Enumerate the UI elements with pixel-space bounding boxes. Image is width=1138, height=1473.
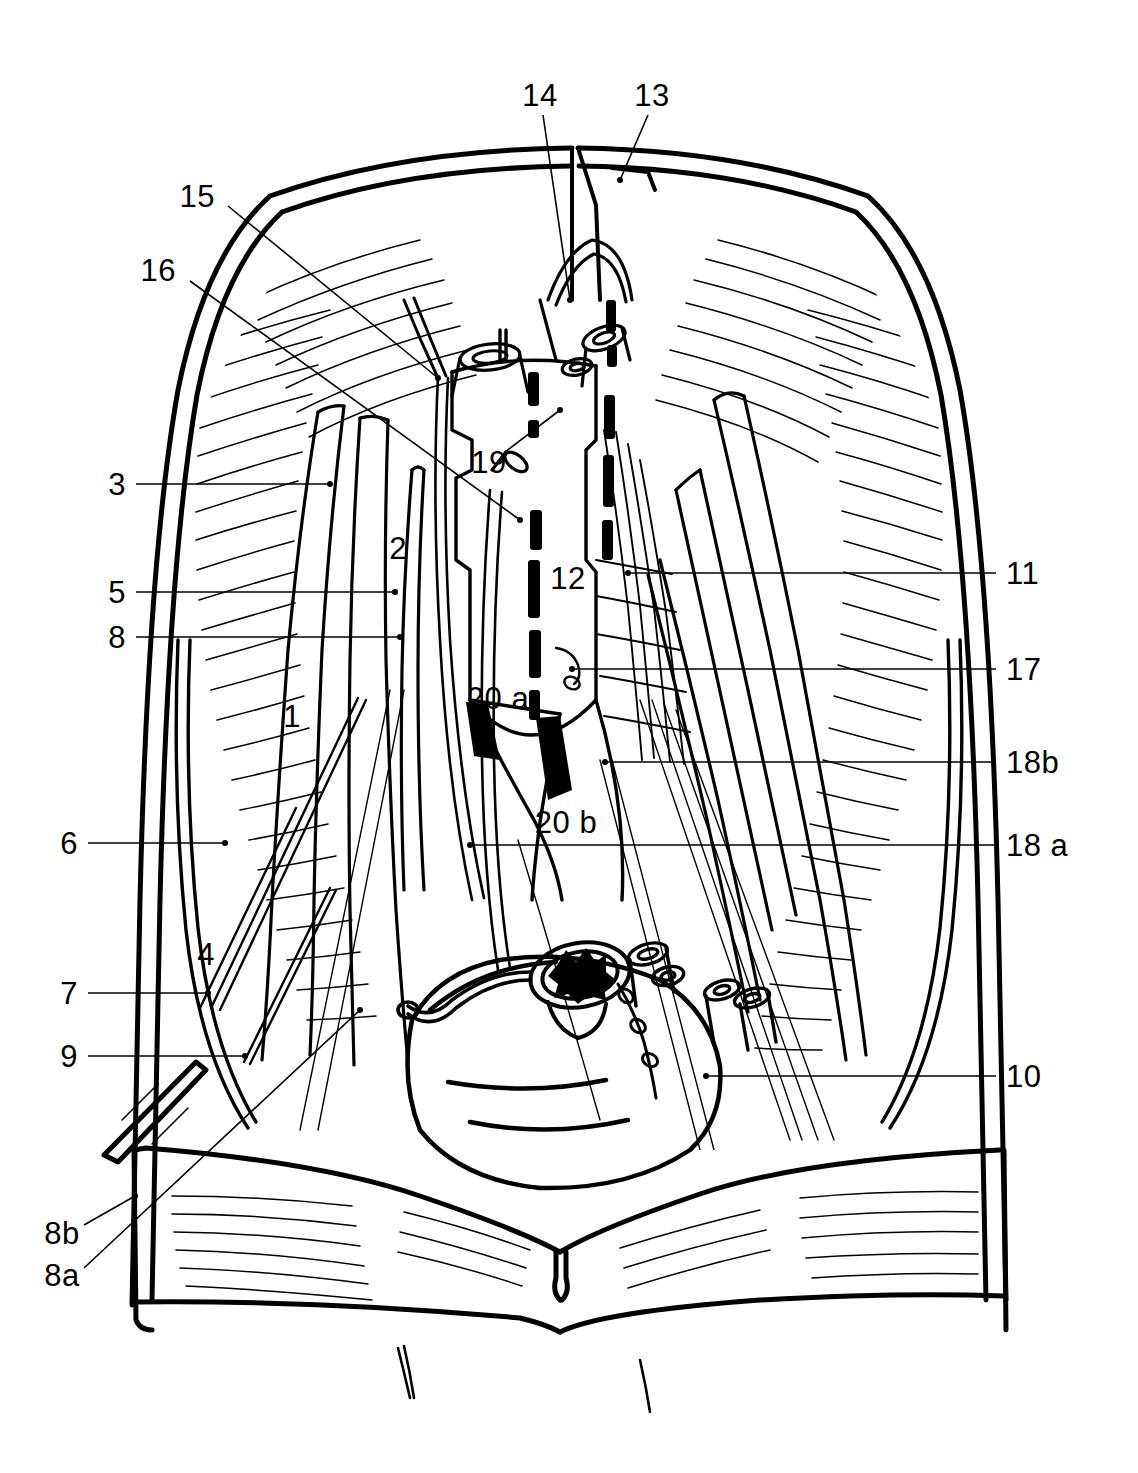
- label-8b: 8b: [44, 1218, 79, 1249]
- left-fascia-hatching: [196, 240, 476, 1020]
- leader-dot-8: [397, 634, 403, 640]
- leader-dot-13: [617, 177, 623, 183]
- label-9: 9: [60, 1041, 78, 1072]
- leader-dot-18-a: [467, 842, 473, 848]
- leader-dot-9: [242, 1053, 248, 1059]
- leader-line-14: [543, 115, 570, 300]
- leader-dot-6: [222, 840, 228, 846]
- label-8a: 8a: [44, 1260, 79, 1291]
- left-muscle-bellies: [262, 406, 424, 1065]
- label-1: 1: [283, 701, 301, 732]
- leader-dot-3: [327, 481, 333, 487]
- leader-dot-8a: [357, 1007, 363, 1013]
- leader-line-19: [505, 410, 560, 452]
- label-18-a: 18 a: [1006, 830, 1068, 861]
- label-16: 16: [141, 255, 176, 286]
- leader-dot-17: [569, 666, 575, 672]
- label-5: 5: [108, 577, 126, 608]
- midline-cut-notch: [572, 148, 655, 300]
- label-19: 19: [471, 447, 506, 478]
- leader-dot-11: [625, 570, 631, 576]
- label-2: 2: [389, 533, 407, 564]
- right-fascia-hatching: [656, 240, 942, 1050]
- leader-lines-group: [84, 115, 996, 1268]
- leader-line-15: [228, 206, 438, 378]
- leader-dot-19: [557, 407, 563, 413]
- illustration-page: 141315163258121117120 a18b20 b618 a47910…: [0, 0, 1138, 1473]
- label-12: 12: [550, 563, 585, 594]
- label-6: 6: [60, 828, 78, 859]
- fine-connective-threads: [300, 690, 834, 1150]
- beaded-duct: [616, 984, 660, 1098]
- label-13: 13: [634, 80, 669, 111]
- leader-dot-16: [517, 517, 523, 523]
- body-outline: [132, 148, 1006, 1305]
- anatomical-figure: [0, 0, 1138, 1473]
- bottom-flank-fold: [134, 1148, 1006, 1332]
- leader-dot-7: [205, 990, 211, 996]
- left-curved-vessel: [398, 972, 530, 1022]
- label-15: 15: [180, 181, 215, 212]
- label-10: 10: [1006, 1061, 1041, 1092]
- leader-dot-8b: [132, 1193, 138, 1199]
- bottom-fold-marks: [398, 1346, 650, 1412]
- label-4: 4: [197, 939, 215, 970]
- label-11: 11: [1006, 558, 1039, 589]
- leader-dot-5: [392, 589, 398, 595]
- leader-dot-18b: [602, 759, 608, 765]
- label-18b: 18b: [1006, 747, 1059, 778]
- central-vessel-column: [452, 330, 596, 735]
- leader-dot-15: [435, 375, 441, 381]
- coiled-small-vessel: [556, 648, 582, 692]
- label-3: 3: [108, 469, 126, 500]
- label-14: 14: [522, 80, 557, 111]
- label-8: 8: [108, 622, 126, 653]
- leader-line-8b: [84, 1196, 135, 1225]
- leader-dot-14: [567, 297, 573, 303]
- label-20-a: 20 a: [467, 683, 529, 714]
- label-20-b: 20 b: [535, 807, 597, 838]
- label-7: 7: [60, 978, 78, 1009]
- leader-dot-10: [703, 1073, 709, 1079]
- label-17: 17: [1006, 654, 1041, 685]
